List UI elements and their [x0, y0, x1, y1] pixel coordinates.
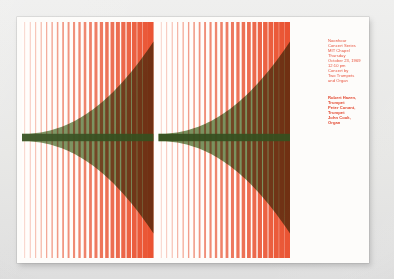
stripe-artwork-svg: [22, 22, 290, 258]
event-detail-line: and Organ: [328, 78, 369, 83]
poster-sheet: NoonhourConcert SeriesMIT ChapelThursday…: [17, 17, 369, 263]
poster-scene: NoonhourConcert SeriesMIT ChapelThursday…: [0, 0, 394, 279]
event-details: NoonhourConcert SeriesMIT ChapelThursday…: [328, 38, 369, 83]
performer-credits: Robert Hazen,TrumpetPeter Conant,Trumpet…: [328, 95, 369, 125]
credit-line: Organ: [328, 120, 369, 125]
stripe-artwork: [22, 22, 290, 258]
text-column: NoonhourConcert SeriesMIT ChapelThursday…: [328, 38, 369, 125]
